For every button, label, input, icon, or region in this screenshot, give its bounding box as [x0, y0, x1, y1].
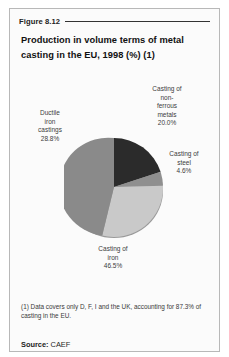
- pie-label-casting-of-iron: Casting of iron 46.5%: [74, 245, 152, 271]
- pie-label-casting-of-non-ferrous-metals: Casting of non- ferrous metals 20.0%: [138, 85, 196, 128]
- pie-label-ductile-iron-castings: Ductile iron castings 28.8%: [22, 109, 78, 143]
- figure-footnote: (1) Data covers only D, F, I and the UK,…: [21, 302, 207, 320]
- figure-panel: Figure 8.12 Production in volume terms o…: [9, 8, 220, 352]
- figure-header: Figure 8.12: [19, 17, 210, 26]
- figure-title-line-1: Production in volume terms of metal: [21, 33, 209, 48]
- figure-title-line-2: casting in the EU, 1998 (%) (1): [21, 48, 209, 63]
- figure-title: Production in volume terms of metal cast…: [21, 33, 209, 62]
- figure-header-rule: [65, 21, 210, 22]
- source-value: CAEF: [51, 340, 71, 349]
- figure-number: Figure 8.12: [19, 17, 60, 26]
- pie-chart: Ductile iron castings 28.8% Casting of n…: [10, 65, 219, 295]
- pie-chart-svg: [64, 137, 166, 239]
- figure-source: Source: CAEF: [21, 340, 70, 349]
- source-label: Source:: [21, 340, 49, 349]
- pie-label-casting-of-steel: Casting of steel 4.6%: [155, 150, 213, 176]
